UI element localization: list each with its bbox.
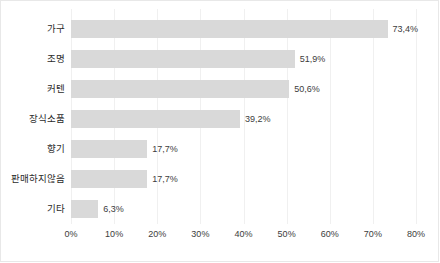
bar	[71, 200, 98, 218]
bar-row: 39,2%	[71, 104, 416, 134]
x-tick-label: 70%	[364, 229, 382, 239]
x-tick-label: 10%	[105, 229, 123, 239]
bar-value-label: 17,7%	[147, 140, 178, 158]
bar-row: 6,3%	[71, 194, 416, 224]
category-label: 장식소품	[29, 110, 65, 128]
category-label: 향기	[47, 140, 65, 158]
x-tick-label: 20%	[148, 229, 166, 239]
bar-row: 50,6%	[71, 74, 416, 104]
chart-frame: 가구조명커텐장식소품향기판매하지않음기타 73,4%51,9%50,6%39,2…	[0, 0, 439, 262]
bar-value-label: 73,4%	[388, 20, 419, 38]
category-label: 조명	[47, 50, 65, 68]
x-tick-label: 50%	[278, 229, 296, 239]
bar-value-label: 6,3%	[98, 200, 124, 218]
x-axis: 0%10%20%30%40%50%60%70%80%	[71, 229, 416, 249]
category-label: 판매하지않음	[11, 170, 65, 188]
category-label: 커텐	[47, 80, 65, 98]
bar	[71, 20, 388, 38]
bar-value-label: 50,6%	[289, 80, 320, 98]
bar-series: 73,4%51,9%50,6%39,2%17,7%17,7%6,3%	[71, 9, 416, 224]
category-label: 가구	[47, 20, 65, 38]
bar-value-label: 39,2%	[240, 110, 271, 128]
category-axis: 가구조명커텐장식소품향기판매하지않음기타	[1, 9, 65, 224]
bar	[71, 140, 147, 158]
gridline	[416, 9, 417, 224]
x-tick-label: 80%	[407, 229, 425, 239]
bar-row: 51,9%	[71, 44, 416, 74]
bar-row: 17,7%	[71, 134, 416, 164]
bar	[71, 50, 295, 68]
bar	[71, 170, 147, 188]
x-tick-label: 0%	[64, 229, 77, 239]
x-tick-label: 30%	[191, 229, 209, 239]
bar-value-label: 17,7%	[147, 170, 178, 188]
category-label: 기타	[47, 200, 65, 218]
plot-area: 73,4%51,9%50,6%39,2%17,7%17,7%6,3%	[71, 9, 416, 224]
x-tick-label: 40%	[234, 229, 252, 239]
x-tick-label: 60%	[321, 229, 339, 239]
bar-row: 73,4%	[71, 14, 416, 44]
bar	[71, 80, 289, 98]
bar-row: 17,7%	[71, 164, 416, 194]
bar-value-label: 51,9%	[295, 50, 326, 68]
bar	[71, 110, 240, 128]
